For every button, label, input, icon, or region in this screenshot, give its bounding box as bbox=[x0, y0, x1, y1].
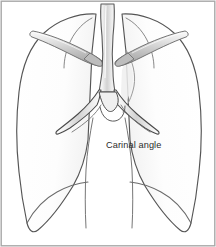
carinal-angle-label: Carinal angle bbox=[106, 140, 161, 150]
anatomy-illustration: Carinal angle bbox=[0, 0, 216, 247]
anatomy-figure: Carinal angle bbox=[0, 0, 216, 247]
